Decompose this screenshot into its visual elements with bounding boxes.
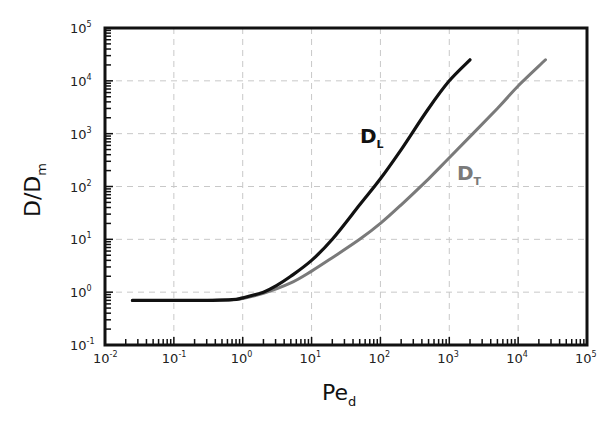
- minor-ticks: [105, 30, 584, 345]
- curves: [132, 60, 545, 301]
- x-tick-label: 102: [368, 350, 390, 366]
- chart: 10-210-1100101102103104105 10-1100101102…: [0, 0, 613, 425]
- series-line-dl: [132, 60, 470, 301]
- x-axis-label: Ped: [322, 380, 356, 409]
- x-tick-label: 104: [506, 350, 528, 366]
- y-tick-label: 105: [70, 20, 92, 36]
- y-tick-label: 102: [70, 179, 92, 195]
- y-tick-label: 10-1: [70, 337, 95, 353]
- y-tick-label: 104: [70, 73, 92, 89]
- x-tick-labels: 10-210-1100101102103104105: [93, 350, 597, 366]
- x-tick-label: 103: [437, 350, 459, 366]
- x-tick-label: 105: [575, 350, 597, 366]
- x-tick-label: 100: [231, 350, 253, 366]
- x-tick-label: 10-1: [162, 350, 187, 366]
- series-label-dt: DT: [457, 161, 482, 188]
- grid-lines: [105, 28, 587, 345]
- x-tick-label: 10-2: [93, 350, 118, 366]
- series-line-dt: [132, 60, 545, 301]
- y-axis-label: D/Dm: [20, 163, 49, 217]
- y-tick-label: 101: [70, 231, 92, 247]
- y-tick-label: 103: [70, 126, 92, 142]
- y-tick-labels: 10-1100101102103104105: [70, 20, 95, 353]
- y-tick-label: 100: [70, 284, 92, 300]
- x-tick-label: 101: [300, 350, 322, 366]
